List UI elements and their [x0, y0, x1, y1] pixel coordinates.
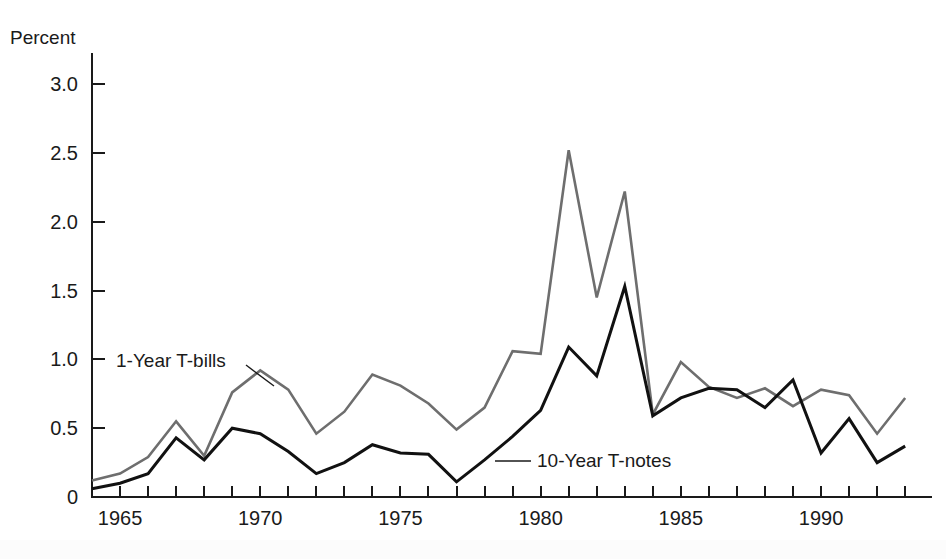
y-tick-label-0: 0: [67, 486, 78, 508]
chart-container: Percent 00.51.01.52.02.53.0 196519701975…: [0, 0, 946, 559]
y-tick-label-0.5: 0.5: [50, 417, 78, 439]
x-tick-label-1970: 1970: [238, 507, 283, 529]
y-axis-ticks: [92, 84, 105, 428]
y-tick-label-1.5: 1.5: [50, 280, 78, 302]
annotation-label-10-year-t-notes: 10-Year T-notes: [537, 450, 671, 471]
data-series-group: [92, 150, 905, 488]
series-line-10-year-t-notes: [92, 286, 905, 488]
annotation-label-1-year-t-bills: 1-Year T-bills: [116, 350, 226, 371]
x-axis-ticks: [120, 486, 905, 497]
series-line-1-year-t-bills: [92, 150, 905, 480]
x-axis-tick-labels: 196519701975198019851990: [98, 507, 844, 529]
y-tick-label-2.5: 2.5: [50, 142, 78, 164]
x-tick-label-1975: 1975: [378, 507, 423, 529]
x-tick-label-1980: 1980: [518, 507, 563, 529]
y-tick-label-3.0: 3.0: [50, 73, 78, 95]
y-axis-tick-labels: 00.51.01.52.02.53.0: [50, 73, 78, 508]
bottom-margin-strip: [0, 540, 946, 559]
y-tick-label-1.0: 1.0: [50, 348, 78, 370]
line-chart: Percent 00.51.01.52.02.53.0 196519701975…: [0, 0, 946, 559]
y-tick-label-2.0: 2.0: [50, 211, 78, 233]
y-axis-title: Percent: [10, 27, 76, 48]
x-tick-label-1985: 1985: [659, 507, 704, 529]
x-tick-label-1965: 1965: [98, 507, 143, 529]
x-tick-label-1990: 1990: [799, 507, 844, 529]
